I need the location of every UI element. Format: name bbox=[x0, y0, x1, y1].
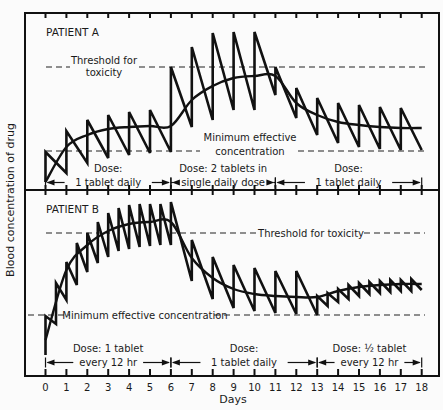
x-tick-label: 12 bbox=[290, 382, 303, 393]
x-tick-label: 3 bbox=[105, 382, 111, 393]
x-tick-label: 4 bbox=[126, 382, 132, 393]
x-tick-label: 16 bbox=[374, 382, 387, 393]
x-tick-label: 11 bbox=[269, 382, 282, 393]
threshold-label: Threshold for bbox=[70, 55, 138, 66]
dose-label: Dose: bbox=[334, 163, 363, 174]
arrow-right-icon bbox=[162, 360, 170, 366]
arrow-left-icon bbox=[47, 360, 55, 366]
drug-concentration-chart: PATIENT AThreshold fortoxicityMinimum ef… bbox=[0, 0, 443, 410]
x-tick-label: 13 bbox=[311, 382, 324, 393]
mec-label: concentration bbox=[215, 146, 284, 157]
arrow-right-icon bbox=[308, 360, 316, 366]
arrow-left-icon bbox=[276, 180, 284, 186]
dose-label: single daily dose bbox=[181, 177, 265, 188]
mec-label: Minimum effective bbox=[204, 132, 297, 143]
dose-label: every 12 hr bbox=[79, 357, 138, 368]
sawtooth-concentration-line bbox=[46, 202, 422, 355]
arrow-left-icon bbox=[172, 360, 180, 366]
arrow-right-icon bbox=[413, 180, 421, 186]
dose-label: Dose: 1 tablet bbox=[73, 343, 144, 354]
x-tick-label: 9 bbox=[230, 382, 236, 393]
x-tick-label: 1 bbox=[63, 382, 69, 393]
arrow-right-icon bbox=[266, 180, 274, 186]
arrow-right-icon bbox=[162, 180, 170, 186]
dose-label: every 12 hr bbox=[341, 357, 400, 368]
x-tick-label: 14 bbox=[332, 382, 345, 393]
arrow-left-icon bbox=[172, 180, 180, 186]
threshold-label: toxicity bbox=[86, 67, 123, 78]
x-tick-label: 17 bbox=[394, 382, 407, 393]
x-tick-label: 8 bbox=[210, 382, 216, 393]
threshold-label: Threshold for toxicity bbox=[257, 228, 364, 239]
arrow-left-icon bbox=[318, 360, 326, 366]
panel-label: PATIENT B bbox=[46, 203, 99, 215]
arrow-right-icon bbox=[413, 360, 421, 366]
y-axis-label: Blood concentration of drug bbox=[4, 123, 17, 277]
dose-label: Dose: ½ tablet bbox=[333, 343, 407, 354]
x-axis-label: Days bbox=[219, 393, 247, 406]
x-tick-label: 0 bbox=[42, 382, 48, 393]
x-tick-label: 7 bbox=[189, 382, 195, 393]
x-tick-label: 2 bbox=[84, 382, 90, 393]
mec-label: Minimum effective concentration bbox=[62, 310, 227, 321]
dose-label: 1 tablet daily bbox=[316, 177, 382, 188]
panel-patient-b: PATIENT BThreshold for toxicityMinimum e… bbox=[28, 202, 425, 368]
dose-label: Dose: bbox=[230, 343, 259, 354]
x-tick-label: 10 bbox=[248, 382, 261, 393]
panel-patient-a: PATIENT AThreshold fortoxicityMinimum ef… bbox=[46, 26, 426, 188]
x-tick-label: 15 bbox=[353, 382, 366, 393]
dose-label: Dose: 2 tablets in bbox=[179, 163, 267, 174]
x-tick-label: 18 bbox=[415, 382, 428, 393]
x-tick-label: 5 bbox=[147, 382, 153, 393]
dose-label: Dose: bbox=[94, 163, 123, 174]
panel-label: PATIENT A bbox=[46, 26, 100, 38]
x-tick-label: 6 bbox=[168, 382, 174, 393]
dose-label: 1 tablet daily bbox=[211, 357, 277, 368]
